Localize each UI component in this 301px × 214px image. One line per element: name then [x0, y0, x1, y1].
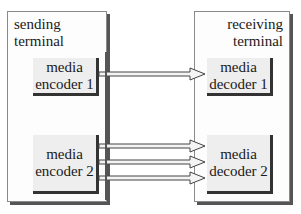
connection-arrows [0, 0, 301, 214]
arrow-encoder1-decoder1 [99, 68, 205, 80]
arrows-encoder2-decoder2 [99, 140, 205, 184]
